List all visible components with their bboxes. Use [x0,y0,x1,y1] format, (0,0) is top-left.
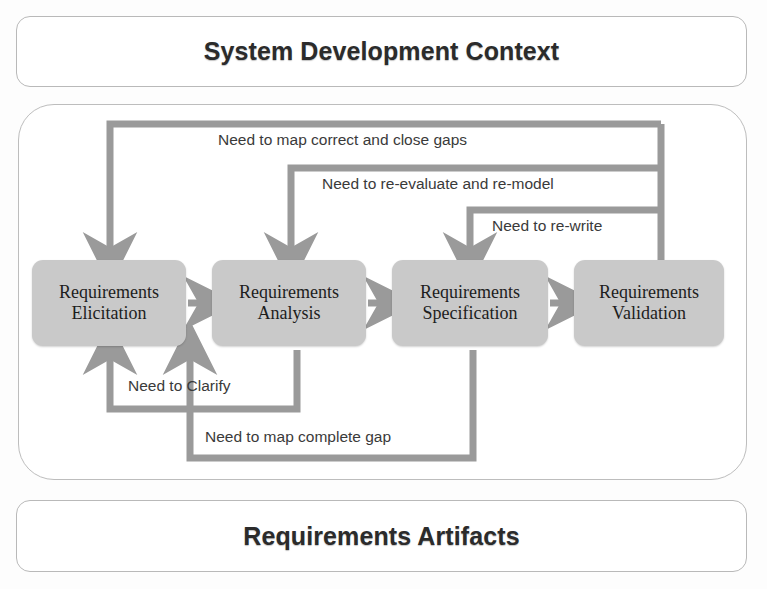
label-need-to-re-write: Need to re-write [492,217,602,235]
process-box-requirements-analysis[interactable]: Requirements Analysis [212,260,366,346]
label-need-to-map-correct: Need to map correct and close gaps [218,131,467,149]
label-need-to-re-evaluate: Need to re-evaluate and re-model [322,175,554,193]
label-need-to-clarify: Need to Clarify [128,377,231,395]
page-title: System Development Context [17,37,746,66]
process-box-requirements-elicitation[interactable]: Requirements Elicitation [32,260,186,346]
process-box-label: Requirements Specification [416,282,524,324]
process-box-label: Requirements Elicitation [55,282,163,324]
process-box-label: Requirements Validation [595,282,703,324]
label-need-to-map-complete-gap: Need to map complete gap [205,428,391,446]
process-box-requirements-specification[interactable]: Requirements Specification [392,260,548,346]
requirements-artifacts-panel: Requirements Artifacts [16,500,747,572]
process-box-label: Requirements Analysis [235,282,343,324]
footer-title: Requirements Artifacts [17,522,746,551]
system-development-context-panel: System Development Context [16,16,747,87]
diagram-canvas: the analysis constraints System Developm… [0,0,767,589]
process-box-requirements-validation[interactable]: Requirements Validation [574,260,724,346]
